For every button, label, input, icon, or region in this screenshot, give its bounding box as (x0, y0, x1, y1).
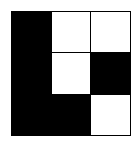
grid-cell-r2-c2 (91, 95, 130, 135)
grid-cell-r0-c0 (12, 12, 51, 52)
grid-cell-r1-c1 (52, 53, 91, 93)
grid-cell-r0-c1 (52, 12, 91, 52)
pattern-grid (11, 11, 131, 136)
grid-cell-r1-c0 (12, 53, 51, 93)
grid-cell-r2-c0 (12, 95, 51, 135)
grid-cell-r0-c2 (91, 12, 130, 52)
grid-cell-r1-c2 (91, 53, 130, 93)
grid-cell-r2-c1 (52, 95, 91, 135)
